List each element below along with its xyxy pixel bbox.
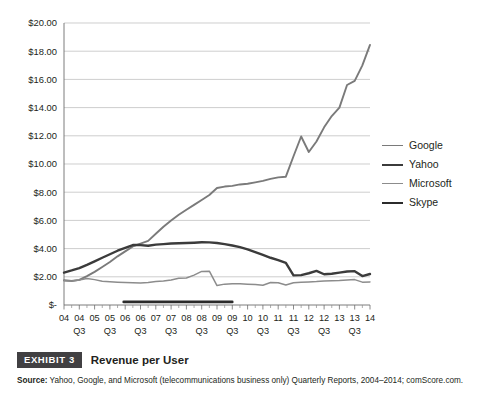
x-axis-quarter-label: Q3 <box>349 326 361 336</box>
x-axis-tick-label: 12 <box>319 313 329 323</box>
x-axis-tick-label: 08 <box>197 313 207 323</box>
x-axis-quarter-label: Q3 <box>257 326 269 336</box>
y-axis-tick-label: $6.00 <box>34 215 57 226</box>
legend-item-microsoft[interactable]: Microsoft <box>382 174 481 193</box>
legend-swatch-google <box>382 145 403 146</box>
source-label: Source: <box>17 376 47 385</box>
x-axis-tick-label: 12 <box>304 313 314 323</box>
x-axis-tick-label: 10 <box>242 313 252 323</box>
x-axis-labels-group: 0404Q30505Q30606Q30707Q30808Q30909Q31010… <box>59 313 375 336</box>
y-axis-tick-label: $18.00 <box>28 46 57 57</box>
x-axis-quarter-label: Q3 <box>318 326 330 336</box>
y-axis-tick-label: $4.00 <box>34 243 57 254</box>
x-axis-tick-label: 11 <box>273 313 283 323</box>
exhibit-badge: EXHIBIT 3 <box>17 352 82 368</box>
x-axis-tick-label: 07 <box>166 313 176 323</box>
exhibit-title: Revenue per User <box>91 354 189 366</box>
x-axis-tick-label: 13 <box>350 313 360 323</box>
x-axis-tick-label: 14 <box>365 313 375 323</box>
x-axis-quarter-label: Q3 <box>196 326 208 336</box>
exhibit-caption: EXHIBIT 3 Revenue per User Source: Yahoo… <box>0 345 481 397</box>
y-axis-tick-label: $2.00 <box>34 271 57 282</box>
legend-swatch-skype <box>382 202 403 204</box>
x-axis-ticks-group <box>64 305 370 310</box>
y-axis-tick-label: $12.00 <box>28 130 57 141</box>
x-axis-tick-label: 09 <box>212 313 222 323</box>
legend-label-yahoo: Yahoo <box>409 159 439 170</box>
x-axis-quarter-label: Q3 <box>287 326 299 336</box>
source-note: Source: Yahoo, Google, and Microsoft (te… <box>17 376 469 386</box>
legend-swatch-yahoo <box>382 164 403 166</box>
y-axis-tick-label: $16.00 <box>28 74 57 85</box>
x-axis-tick-label: 05 <box>89 313 99 323</box>
y-axis-tick-label: $- <box>49 299 57 310</box>
x-axis-tick-label: 04 <box>74 313 84 323</box>
caption-line: EXHIBIT 3 Revenue per User <box>17 352 189 368</box>
x-axis-tick-label: 09 <box>227 313 237 323</box>
source-text: Yahoo, Google, and Microsoft (telecommun… <box>47 376 463 385</box>
x-axis-tick-label: 10 <box>258 313 268 323</box>
series-line-yahoo <box>64 242 370 276</box>
y-axis-labels-group: $-$2.00$4.00$6.00$8.00$10.00$12.00$14.00… <box>28 17 57 310</box>
x-axis-tick-label: 06 <box>135 313 145 323</box>
y-axis-tick-label: $8.00 <box>34 187 57 198</box>
legend-item-google[interactable]: Google <box>382 136 481 155</box>
legend-label-skype: Skype <box>409 197 438 208</box>
y-axis-tick-label: $20.00 <box>28 17 57 28</box>
x-axis-tick-label: 04 <box>59 313 69 323</box>
x-axis-tick-label: 08 <box>181 313 191 323</box>
x-axis-quarter-label: Q3 <box>73 326 85 336</box>
y-axis-tick-label: $10.00 <box>28 158 57 169</box>
legend-swatch-microsoft <box>382 183 403 184</box>
legend-item-skype[interactable]: Skype <box>382 193 481 212</box>
exhibit-figure: $-$2.00$4.00$6.00$8.00$10.00$12.00$14.00… <box>0 0 481 397</box>
y-axis-tick-label: $14.00 <box>28 102 57 113</box>
chart-legend: Google Yahoo Microsoft Skype <box>382 136 481 212</box>
legend-item-yahoo[interactable]: Yahoo <box>382 155 481 174</box>
x-axis-tick-label: 13 <box>334 313 344 323</box>
x-axis-tick-label: 05 <box>105 313 115 323</box>
series-line-google <box>64 45 370 281</box>
x-axis-quarter-label: Q3 <box>134 326 146 336</box>
legend-label-microsoft: Microsoft <box>409 178 452 189</box>
series-lines-group <box>64 45 370 302</box>
x-axis-quarter-label: Q3 <box>165 326 177 336</box>
gridlines-group <box>64 23 370 277</box>
x-axis-tick-label: 11 <box>289 313 299 323</box>
x-axis-quarter-label: Q3 <box>104 326 116 336</box>
x-axis-tick-label: 06 <box>120 313 130 323</box>
legend-label-google: Google <box>409 140 443 151</box>
x-axis-quarter-label: Q3 <box>226 326 238 336</box>
x-axis-tick-label: 07 <box>151 313 161 323</box>
